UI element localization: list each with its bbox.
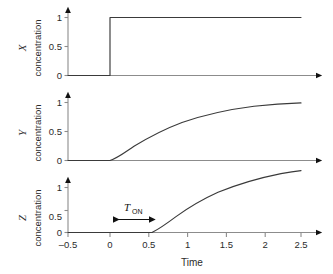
panel-y-ytick-0: 0 bbox=[57, 155, 62, 166]
panel-y-curve bbox=[68, 103, 301, 161]
panel-y-ytick-1: 1 bbox=[57, 97, 62, 108]
panel-y-ytick-05: 0.5 bbox=[49, 126, 62, 137]
panel-x: X concentration 1 0.5 0 bbox=[16, 12, 316, 81]
panel-z-species-label: Z bbox=[16, 214, 28, 221]
xtick-label-2.5: 2.5 bbox=[294, 239, 307, 250]
panel-y: Y concentration 1 0.5 0 bbox=[16, 97, 316, 166]
panel-x-species-label: X bbox=[16, 43, 28, 52]
xtick-label-2: 2 bbox=[263, 239, 268, 250]
panel-x-ytick-1: 1 bbox=[57, 12, 62, 23]
t-on-subscript: ON bbox=[132, 208, 143, 215]
xtick-label-1.5: 1.5 bbox=[220, 239, 233, 250]
panel-y-concentration-label: concentration bbox=[32, 104, 43, 161]
xtick-label-1: 1 bbox=[185, 239, 190, 250]
panel-z-curve bbox=[152, 171, 301, 233]
panel-x-ytick-0: 0 bbox=[57, 70, 62, 81]
panel-z-ytick-05: 0.5 bbox=[49, 211, 62, 222]
panel-x-concentration-label: concentration bbox=[32, 19, 43, 76]
t-on-symbol: T bbox=[124, 201, 131, 213]
panel-z-ytick-0: 0 bbox=[57, 227, 62, 238]
time-axis-labels: –0.5 0 0.5 1 1.5 2 2.5 Time bbox=[59, 239, 308, 268]
panel-z: Z concentration 1 0.5 0 T bbox=[16, 171, 316, 247]
panel-x-curve bbox=[68, 18, 301, 76]
panel-y-species-label: Y bbox=[16, 128, 28, 136]
xtick-label-0.5: 0.5 bbox=[142, 239, 155, 250]
x-axis-title: Time bbox=[181, 257, 203, 268]
panel-x-ytick-05: 0.5 bbox=[49, 41, 62, 52]
panel-z-ytick-1: 1 bbox=[57, 182, 62, 193]
xtick-label-0: 0 bbox=[107, 239, 112, 250]
three-panel-time-course-figure: X concentration 1 0.5 0 Y concentration … bbox=[0, 0, 333, 274]
panel-z-concentration-label: concentration bbox=[32, 189, 43, 246]
xtick-label--0.5: –0.5 bbox=[59, 239, 78, 250]
figure-canvas: X concentration 1 0.5 0 Y concentration … bbox=[0, 0, 333, 274]
